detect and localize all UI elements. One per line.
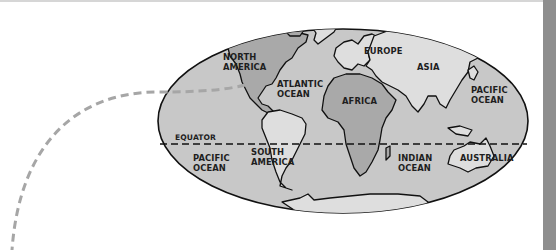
label-europe: EUROPE (364, 46, 403, 56)
label-south-america-1: SOUTH (251, 147, 284, 157)
label-north-america-1: NORTH (223, 52, 256, 62)
label-atlantic-2: OCEAN (277, 89, 310, 99)
label-australia: AUSTRALIA (460, 153, 514, 163)
label-indian-2: OCEAN (398, 163, 431, 173)
label-pacific-east-2: OCEAN (471, 95, 504, 105)
label-pacific-east-1: PACIFIC (471, 85, 508, 95)
world-map: NORTH AMERICA ATLANTIC OCEAN EUROPE ASIA… (0, 0, 556, 250)
label-africa: AFRICA (342, 96, 377, 106)
label-indian-1: INDIAN (398, 153, 432, 163)
label-equator: EQUATOR (175, 133, 216, 142)
label-pacific-west-2: OCEAN (193, 163, 226, 173)
label-north-america-2: AMERICA (223, 62, 267, 72)
label-asia: ASIA (417, 62, 440, 72)
label-atlantic-1: ATLANTIC (277, 79, 323, 89)
label-pacific-west-1: PACIFIC (193, 153, 230, 163)
label-south-america-2: AMERICA (251, 157, 295, 167)
